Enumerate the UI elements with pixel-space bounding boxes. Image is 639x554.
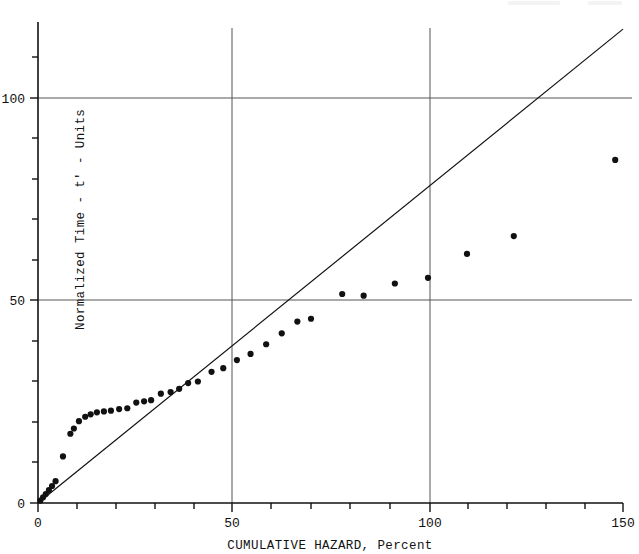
x-axis-ticks [38, 503, 623, 512]
data-point [247, 351, 253, 357]
data-point [234, 357, 240, 363]
reference-line [38, 29, 623, 503]
data-point [168, 389, 174, 395]
data-point [263, 341, 269, 347]
data-point [52, 478, 58, 484]
top-edge-artifact-left [508, 1, 560, 5]
gridlines-group [38, 28, 632, 503]
y-axis-tick-labels: 0 50 100 [2, 92, 25, 512]
x-tick-label-100: 100 [418, 516, 441, 531]
data-point [392, 280, 398, 286]
data-point [124, 405, 130, 411]
data-point [294, 318, 300, 324]
data-point [60, 453, 66, 459]
data-point [308, 316, 314, 322]
data-point [141, 398, 147, 404]
data-point [101, 408, 107, 414]
x-tick-label-50: 50 [224, 516, 240, 531]
data-point [82, 414, 88, 420]
data-point [116, 406, 122, 412]
data-point [361, 293, 367, 299]
data-point [208, 369, 214, 375]
data-point [133, 399, 139, 405]
x-tick-label-150: 150 [611, 516, 634, 531]
data-point [67, 431, 73, 437]
hazard-plot-figure: 0 50 100 0 50 100 150 Normalized Time - … [0, 0, 639, 554]
data-point [425, 275, 431, 281]
data-point [94, 409, 100, 415]
axes-spines-group [38, 22, 623, 503]
y-tick-label-100: 100 [2, 92, 25, 107]
x-axis-tick-labels: 0 50 100 150 [34, 516, 635, 531]
data-point [88, 411, 94, 417]
top-edge-artifact-right [588, 1, 622, 5]
data-point [612, 157, 618, 163]
data-point [195, 378, 201, 384]
scatter-chart: 0 50 100 0 50 100 150 Normalized Time - … [0, 0, 639, 554]
scatter-points-group [37, 157, 618, 504]
data-point [76, 418, 82, 424]
data-point [464, 251, 470, 257]
data-point [220, 365, 226, 371]
x-tick-label-0: 0 [34, 516, 42, 531]
data-point [108, 408, 114, 414]
data-point [71, 425, 77, 431]
y-tick-label-50: 50 [9, 294, 25, 309]
y-axis-title: Normalized Time - t' - Units [74, 109, 88, 330]
data-point [185, 380, 191, 386]
y-tick-label-0: 0 [17, 497, 25, 512]
x-axis-title: CUMULATIVE HAZARD, Percent [227, 539, 432, 553]
data-point [279, 330, 285, 336]
data-point [176, 386, 182, 392]
y-axis-ticks [30, 57, 38, 503]
data-point [158, 391, 164, 397]
data-point [339, 291, 345, 297]
data-point [148, 397, 154, 403]
data-point [511, 233, 517, 239]
